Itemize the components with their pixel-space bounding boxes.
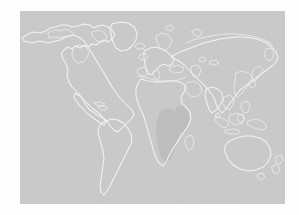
world-map-svg [20, 11, 285, 204]
page-background [0, 0, 299, 215]
world-map-figure [20, 11, 285, 204]
